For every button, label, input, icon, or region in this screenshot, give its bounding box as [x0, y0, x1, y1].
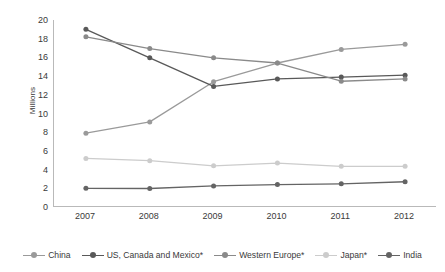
y-tick-label: 18: [18, 34, 48, 43]
data-point: [403, 164, 408, 169]
legend-dot: [222, 252, 228, 258]
data-point: [275, 182, 280, 187]
y-axis-tick-labels: 20181614121086420: [18, 16, 48, 207]
legend-item-western-europe[interactable]: Western Europe*: [214, 250, 304, 260]
legend-dot: [323, 252, 329, 258]
chart-legend: ChinaUS, Canada and Mexico*Western Europ…: [0, 246, 445, 264]
y-tick-label: 4: [18, 165, 48, 174]
data-point: [403, 179, 408, 184]
y-tick-label: 10: [18, 109, 48, 118]
data-point: [339, 79, 344, 84]
legend-label: US, Canada and Mexico*: [107, 250, 204, 260]
data-point: [339, 181, 344, 186]
data-point: [403, 42, 408, 47]
data-point: [83, 186, 88, 191]
series-line: [86, 182, 405, 189]
series-line: [86, 37, 405, 81]
data-point: [147, 119, 152, 124]
x-tick-label: 2011: [310, 211, 370, 222]
plot-area: [53, 20, 436, 207]
legend-marker-icon: [315, 251, 337, 260]
data-point: [339, 164, 344, 169]
data-point: [83, 34, 88, 39]
plot-series-svg: [54, 20, 437, 207]
data-point: [403, 76, 408, 81]
y-tick-label: 12: [18, 90, 48, 99]
y-tick-label: 2: [18, 184, 48, 193]
legend-dot: [90, 252, 96, 258]
data-point: [147, 55, 152, 60]
data-point: [211, 84, 216, 89]
legend-dot: [31, 252, 37, 258]
y-tick-label: 0: [18, 203, 48, 212]
legend-marker-icon: [82, 251, 104, 260]
data-point: [211, 55, 216, 60]
line-chart: Millions 20181614121086420 2007200820092…: [0, 0, 445, 272]
series-china: [83, 42, 407, 136]
series-us-canada-and-mexico: [83, 27, 407, 89]
series-line: [86, 44, 405, 133]
data-point: [275, 161, 280, 166]
data-point: [275, 61, 280, 66]
legend-dot: [386, 252, 392, 258]
legend-item-japan[interactable]: Japan*: [315, 250, 367, 260]
x-tick-label: 2009: [183, 211, 243, 222]
series-india: [83, 179, 407, 191]
legend-label: India: [403, 250, 422, 260]
legend-item-china[interactable]: China: [23, 250, 70, 260]
data-point: [147, 46, 152, 51]
x-tick-label: 2012: [374, 211, 434, 222]
data-point: [211, 79, 216, 84]
legend-item-us-canada-and-mexico[interactable]: US, Canada and Mexico*: [82, 250, 204, 260]
legend-marker-icon: [378, 251, 400, 260]
x-tick-label: 2010: [246, 211, 306, 222]
legend-label: Western Europe*: [239, 250, 304, 260]
legend-label: Japan*: [340, 250, 367, 260]
data-point: [275, 76, 280, 81]
y-tick-label: 6: [18, 146, 48, 155]
data-point: [147, 186, 152, 191]
legend-marker-icon: [214, 251, 236, 260]
data-point: [211, 163, 216, 168]
y-tick-label: 20: [18, 16, 48, 25]
legend-marker-icon: [23, 251, 45, 260]
data-point: [83, 156, 88, 161]
data-point: [83, 131, 88, 136]
x-axis-tick-labels: 200720082009201020112012: [53, 211, 436, 225]
y-tick-label: 16: [18, 53, 48, 62]
legend-label: China: [48, 250, 70, 260]
y-tick-label: 8: [18, 128, 48, 137]
x-tick-label: 2007: [55, 211, 115, 222]
data-point: [339, 47, 344, 52]
y-tick-label: 14: [18, 72, 48, 81]
data-point: [211, 183, 216, 188]
data-point: [147, 158, 152, 163]
series-line: [86, 158, 405, 166]
legend-item-india[interactable]: India: [378, 250, 422, 260]
series-japan: [83, 156, 407, 169]
series-line: [86, 29, 405, 86]
x-tick-label: 2008: [119, 211, 179, 222]
data-point: [83, 27, 88, 32]
